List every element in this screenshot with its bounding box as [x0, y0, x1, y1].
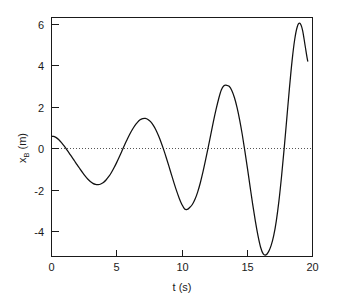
- y-tick-label-neg4: -4: [34, 226, 44, 238]
- chart-figure: 6 4 2 0 -2 -4 0 5 10 15 20 t (s) xB (m): [0, 0, 344, 299]
- series-xb-curve: [51, 23, 308, 255]
- y-tick-label-4: 4: [38, 60, 44, 72]
- plot-frame: [52, 18, 313, 257]
- x-axis-ticks: [52, 250, 313, 257]
- y-tick-label-0: 0: [38, 143, 44, 155]
- y-axis-ticks: [52, 25, 59, 232]
- x-tick-label-5: 5: [113, 261, 119, 273]
- x-axis-title: t (s): [173, 281, 192, 293]
- y-axis-title: xB (m): [16, 133, 31, 163]
- y-tick-label-6: 6: [38, 19, 44, 31]
- y-axis-tick-labels: 6 4 2 0 -2 -4: [34, 19, 44, 238]
- x-tick-label-20: 20: [306, 261, 318, 273]
- x-axis-tick-labels: 0 5 10 15 20: [48, 261, 318, 273]
- x-tick-label-10: 10: [176, 261, 188, 273]
- x-tick-label-15: 15: [241, 261, 253, 273]
- y-tick-label-2: 2: [38, 102, 44, 114]
- y-axis-title-text: xB (m): [16, 133, 31, 163]
- y-tick-label-neg2: -2: [34, 185, 44, 197]
- line-chart: 6 4 2 0 -2 -4 0 5 10 15 20 t (s) xB (m): [0, 0, 344, 299]
- x-tick-label-0: 0: [48, 261, 54, 273]
- y-axis-title-units: (m): [16, 133, 28, 153]
